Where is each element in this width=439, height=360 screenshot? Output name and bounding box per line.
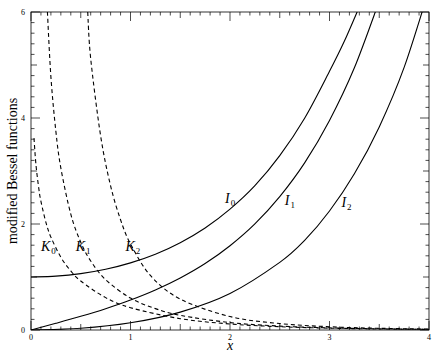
curve-k2 [88,12,429,329]
y-tick-label: 0 [21,326,25,335]
label-i2: I2 [340,195,351,212]
y-tick-label: 6 [21,8,25,17]
y-tick-label: 2 [21,220,25,229]
y-tick-label: 4 [21,114,25,123]
y-tick-labels: 0246 [21,8,25,335]
axis-ticks [31,12,429,330]
x-axis-label: x [226,338,234,353]
label-k2: K2 [125,239,141,256]
curve-i0 [31,7,359,277]
plot-frame [31,12,429,330]
label-i0: I0 [224,191,236,208]
plot-curves [31,0,429,330]
curve-i2 [31,0,429,330]
curve-k0 [34,138,429,329]
x-tick-label: 4 [427,333,431,342]
x-tick-label: 1 [129,333,133,342]
x-tick-label: 3 [328,333,332,342]
curve-k1 [47,12,429,329]
curve-i1 [31,1,379,330]
label-k0: K0 [40,239,56,256]
x-tick-label: 0 [29,333,33,342]
y-axis-label: modified Bessel functions [5,98,20,244]
curve-labels: I0I1I2K0K1K2 [40,191,352,256]
label-k1: K1 [75,239,91,256]
label-i1: I1 [284,193,295,210]
bessel-chart: 01234 0246 x modified Bessel functions I… [0,0,439,360]
